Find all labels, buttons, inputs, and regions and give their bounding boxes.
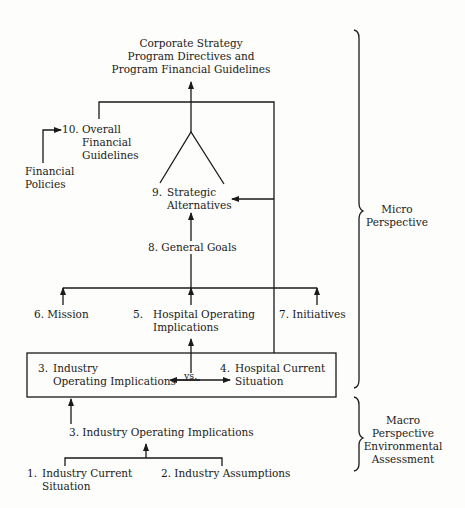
corporate-strategy-output: Corporate Strategy Program Directives an… — [105, 37, 277, 76]
node-6-mission: 6. Mission — [34, 308, 89, 321]
arrow-financial-policies-to-10 — [43, 130, 61, 163]
node-2-industry-assumptions: 2. Industry Assumptions — [161, 467, 291, 480]
node-3-industry-operating-implications-box: 3. Industry Operating Implications — [38, 362, 48, 375]
lower-bracket — [65, 458, 222, 466]
y-fork — [160, 132, 224, 184]
vs-label: vs. — [184, 369, 197, 382]
node-3-industry-operating-implications: 3. Industry Operating Implications — [69, 426, 254, 439]
financial-policies: Financial Policies — [25, 165, 74, 191]
node-1-industry-current-situation: 1. Industry Current Situation — [27, 467, 37, 480]
macro-perspective-label: Macro Perspective Environmental Assessme… — [362, 414, 444, 466]
node-8-general-goals: 8. General Goals — [146, 241, 239, 254]
node-4-hospital-current-situation: 4. Hospital Current Situation — [220, 362, 230, 375]
node-10-overall-financial-guidelines: 10. Overall Financial Guidelines — [62, 123, 79, 136]
node-5-hospital-operating-implications: 5. Hospital Operating Implications — [133, 308, 143, 321]
node-7-initiatives: 7. Initiatives — [279, 308, 346, 321]
micro-perspective-label: Micro Perspective — [362, 203, 432, 229]
node-9-strategic-alternatives: 9. Strategic Alternatives — [152, 186, 162, 199]
